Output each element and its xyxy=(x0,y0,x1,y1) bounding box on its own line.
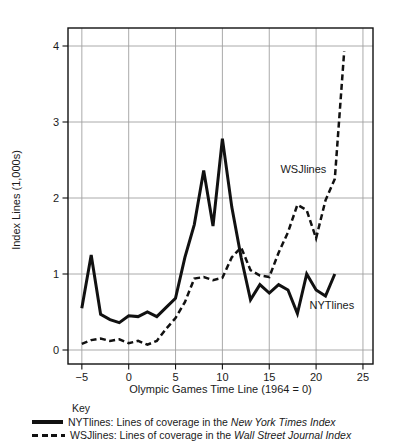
key-entry-nyt: NYTlines: Lines of coverage in the New Y… xyxy=(32,416,398,429)
key-label-nyt-text: NYTlines: Lines of coverage in the xyxy=(68,416,231,428)
x-axis-title: Olympic Games Time Line (1964 = 0) xyxy=(68,383,373,395)
nyt-series-label: NYTlines xyxy=(310,299,355,311)
key-title: Key xyxy=(72,402,398,415)
key-label-nyt: NYTlines: Lines of coverage in the New Y… xyxy=(68,416,336,429)
chart-key: Key NYTlines: Lines of coverage in the N… xyxy=(0,400,398,442)
x-tick-label: 0 xyxy=(126,371,132,383)
key-label-wsj-italic: Wall Street Journal Index xyxy=(234,429,351,441)
x-tick-label: 10 xyxy=(216,371,228,383)
y-axis-title: Index Lines (1,000s) xyxy=(9,100,23,300)
key-label-wsj-text: WSJlines: Lines of coverage in the xyxy=(70,429,234,441)
x-tick-label: 15 xyxy=(263,371,275,383)
solid-line-swatch xyxy=(32,420,63,424)
key-label-nyt-italic: New York Times Index xyxy=(231,416,336,428)
key-entry-wsj: WSJlines: Lines of coverage in the Wall … xyxy=(32,429,398,442)
x-tick-label: 20 xyxy=(310,371,322,383)
y-tick-label: 1 xyxy=(53,268,59,280)
dashed-line-swatch xyxy=(32,434,65,437)
x-tick-label: −5 xyxy=(76,371,89,383)
figure: −5051015202501234 Index Lines (1,000s) O… xyxy=(0,0,398,446)
y-tick-label: 0 xyxy=(53,344,59,356)
line-chart: −5051015202501234 xyxy=(0,0,398,446)
y-tick-label: 4 xyxy=(53,40,59,52)
y-tick-label: 2 xyxy=(53,192,59,204)
x-tick-label: 25 xyxy=(357,371,369,383)
x-tick-label: 5 xyxy=(172,371,178,383)
key-label-wsj: WSJlines: Lines of coverage in the Wall … xyxy=(70,429,351,442)
wsj-series-label: WSJlines xyxy=(280,163,326,175)
y-tick-label: 3 xyxy=(53,116,59,128)
